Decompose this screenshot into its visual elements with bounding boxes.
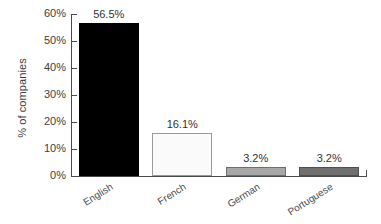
y-tick-label: 40% (22, 61, 66, 73)
y-tick-label-wrap: 20% (18, 115, 66, 128)
x-axis-right-cap (366, 170, 367, 177)
y-tick-label-wrap: 10% (18, 142, 66, 155)
y-tick-label-wrap: 0% (18, 169, 66, 182)
y-tick-label-wrap: 60% (18, 7, 66, 20)
bar-group: 16.1% (152, 14, 212, 176)
y-tick-label: 50% (22, 34, 66, 46)
bar-group: 56.5% (79, 14, 139, 176)
x-axis-line (71, 176, 367, 177)
y-tick-label-wrap: 30% (18, 88, 66, 101)
y-tick-label-wrap: 50% (18, 34, 66, 47)
x-tick-label-portuguese: Portuguese (255, 181, 335, 224)
x-tick-label-french: French (108, 181, 188, 224)
bar-value-label: 3.2% (317, 152, 342, 164)
bar-german (226, 167, 286, 176)
plot-area: 56.5%16.1%3.2%3.2% (72, 14, 366, 176)
y-tick-label: 20% (22, 115, 66, 127)
bar-value-label: 56.5% (93, 8, 124, 20)
y-tick-label: 60% (22, 7, 66, 19)
x-tick-label-english: English (34, 181, 114, 224)
bar-group: 3.2% (299, 14, 359, 176)
bar-chart: % of companies 60%50%40%30%20%10%0% 56.5… (0, 0, 381, 224)
bar-value-label: 3.2% (243, 152, 268, 164)
bar-group: 3.2% (226, 14, 286, 176)
bar-value-label: 16.1% (167, 118, 198, 130)
x-tick-label-german: German (181, 181, 261, 224)
y-tick-label: 0% (22, 169, 66, 181)
y-tick-label: 30% (22, 88, 66, 100)
y-tick-mark (72, 176, 77, 177)
bar-english (79, 23, 139, 176)
y-tick-label-wrap: 40% (18, 61, 66, 74)
y-tick-label: 10% (22, 142, 66, 154)
bar-portuguese (299, 167, 359, 176)
bar-french (152, 133, 212, 176)
